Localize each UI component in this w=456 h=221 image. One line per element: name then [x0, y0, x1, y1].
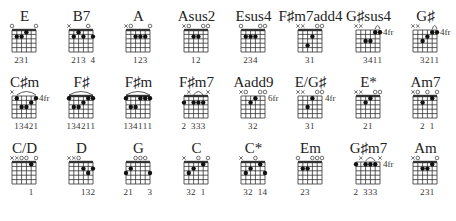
finger-dot-icon	[133, 34, 137, 38]
open-string-icon	[296, 156, 300, 160]
finger-dot-icon	[305, 43, 309, 47]
finger-number: 1	[34, 121, 39, 131]
finger-dot-icon	[15, 34, 19, 38]
muted-string-icon	[67, 156, 70, 159]
finger-number: 4	[91, 55, 96, 65]
finger-dot-icon	[301, 166, 305, 170]
finger-number: 3	[305, 187, 310, 197]
finger-number: 1	[91, 121, 96, 131]
finger-dot-icon	[29, 162, 33, 166]
finger-dot-icon	[310, 34, 314, 38]
finger-dot-icon	[363, 39, 367, 43]
finger-dot-icon	[76, 105, 80, 109]
finger-dot-icon	[425, 34, 429, 38]
open-string-icon	[315, 24, 319, 28]
open-string-icon	[426, 90, 430, 94]
open-string-icon	[20, 156, 24, 160]
finger-dot-icon	[244, 171, 248, 175]
finger-dot-icon	[34, 96, 38, 100]
muted-string-icon	[72, 156, 75, 159]
finger-dot-icon	[305, 105, 309, 109]
fret-position-label: 4fr	[383, 27, 394, 37]
finger-dot-icon	[24, 30, 28, 34]
barre-arc-icon	[69, 92, 93, 96]
muted-string-icon	[67, 24, 70, 27]
finger-dot-icon	[72, 34, 76, 38]
finger-dot-icon	[19, 34, 23, 38]
finger-dot-icon	[258, 162, 262, 166]
finger-number: 1	[24, 55, 29, 65]
finger-dot-icon	[129, 105, 133, 109]
muted-string-icon	[378, 156, 381, 159]
finger-number: 1	[368, 121, 373, 131]
finger-dot-icon	[354, 162, 358, 166]
muted-string-icon	[187, 90, 190, 93]
finger-dot-icon	[182, 100, 186, 104]
open-string-icon	[77, 156, 81, 160]
chord-diagram: G♯4fr3211	[397, 8, 454, 78]
finger-dot-icon	[67, 96, 71, 100]
muted-string-icon	[239, 90, 242, 93]
open-string-icon	[435, 90, 439, 94]
open-string-icon	[143, 156, 147, 160]
fret-position-label: 4fr	[440, 27, 451, 37]
barre-arc-icon	[432, 26, 437, 30]
finger-number: 2	[196, 55, 201, 65]
finger-number: 1	[430, 187, 435, 197]
finger-number: 3	[148, 187, 153, 197]
finger-dot-icon	[148, 171, 152, 175]
finger-dot-icon	[191, 100, 195, 104]
muted-string-icon	[416, 24, 419, 27]
fret-position-label: 6fr	[268, 93, 279, 103]
muted-string-icon	[411, 156, 414, 159]
open-string-icon	[239, 24, 243, 28]
open-string-icon	[129, 24, 133, 28]
finger-dot-icon	[138, 96, 142, 100]
muted-string-icon	[301, 24, 304, 27]
finger-dot-icon	[124, 171, 128, 175]
finger-dot-icon	[81, 100, 85, 104]
finger-dot-icon	[244, 34, 248, 38]
barre-arc-icon	[126, 92, 150, 96]
barre-arc-icon	[17, 92, 36, 96]
open-string-icon	[25, 156, 29, 160]
muted-string-icon	[296, 24, 299, 27]
finger-dot-icon	[373, 30, 377, 34]
open-string-icon	[311, 156, 315, 160]
finger-dot-icon	[430, 162, 434, 166]
chord-diagram: Am721	[397, 74, 454, 144]
muted-string-icon	[359, 24, 362, 27]
finger-number: 1	[29, 187, 34, 197]
muted-string-icon	[10, 90, 13, 93]
finger-dot-icon	[253, 96, 257, 100]
open-string-icon	[197, 156, 201, 160]
open-string-icon	[187, 24, 191, 28]
finger-dot-icon	[420, 166, 424, 170]
finger-dot-icon	[76, 30, 80, 34]
muted-string-icon	[411, 90, 414, 93]
finger-number: 1	[310, 55, 315, 65]
finger-dot-icon	[81, 34, 85, 38]
open-string-icon	[206, 24, 210, 28]
finger-number: 4	[263, 187, 268, 197]
open-string-icon	[373, 90, 377, 94]
finger-dot-icon	[420, 100, 424, 104]
finger-dot-icon	[133, 105, 137, 109]
finger-number: 2	[191, 187, 196, 197]
finger-dot-icon	[248, 34, 252, 38]
finger-dot-icon	[91, 96, 95, 100]
open-string-icon	[320, 156, 324, 160]
fretboard-grid	[397, 74, 454, 134]
finger-dot-icon	[363, 100, 367, 104]
barre-arc-icon	[366, 158, 376, 162]
finger-dot-icon	[425, 166, 429, 170]
muted-string-icon	[354, 24, 357, 27]
finger-dot-icon	[430, 30, 434, 34]
open-string-icon	[201, 24, 205, 28]
muted-string-icon	[359, 156, 362, 159]
finger-number: 1	[378, 55, 383, 65]
finger-number: 3	[201, 121, 206, 131]
finger-dot-icon	[138, 34, 142, 38]
finger-dot-icon	[191, 34, 195, 38]
finger-dot-icon	[305, 166, 309, 170]
